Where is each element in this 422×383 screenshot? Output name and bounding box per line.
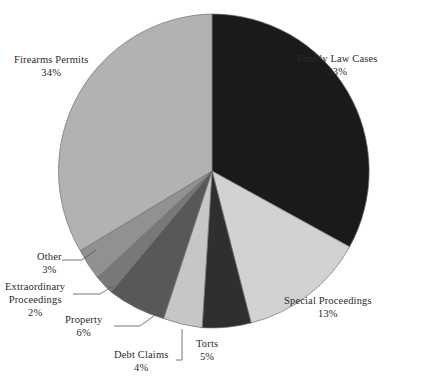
- pie-label-debt-claims-value: 4%: [114, 361, 168, 374]
- leader-line-property: [114, 313, 158, 326]
- pie-label-torts-value: 5%: [196, 350, 218, 363]
- pie-label-firearms-permits-name: Firearms Permits: [14, 53, 88, 66]
- pie-label-debt-claims: Debt Claims 4%: [114, 348, 168, 374]
- pie-label-firearms-permits: Firearms Permits 34%: [14, 53, 88, 79]
- pie-label-special-proceedings-name: Special Proceedings: [284, 294, 372, 307]
- pie-label-special-proceedings: Special Proceedings 13%: [284, 294, 372, 320]
- pie-label-other-value: 3%: [37, 263, 62, 276]
- pie-label-extraordinary-proceedings-name-line2: Proceedings: [5, 293, 65, 306]
- pie-label-property-name: Property: [65, 313, 102, 326]
- pie-label-property: Property 6%: [65, 313, 102, 339]
- pie-label-other: Other 3%: [37, 250, 62, 276]
- pie-label-special-proceedings-value: 13%: [284, 307, 372, 320]
- pie-label-torts: Torts 5%: [196, 337, 218, 363]
- pie-label-family-law-cases: Family Law Cases 33%: [297, 52, 378, 78]
- pie-label-extraordinary-proceedings-value: 2%: [5, 306, 65, 319]
- pie-label-extraordinary-proceedings-name-line1: Extraordinary: [5, 280, 65, 293]
- pie-label-property-value: 6%: [65, 326, 102, 339]
- pie-label-other-name: Other: [37, 250, 62, 263]
- pie-label-torts-name: Torts: [196, 337, 218, 350]
- pie-label-extraordinary-proceedings: Extraordinary Proceedings 2%: [5, 280, 65, 319]
- pie-label-family-law-cases-value: 33%: [297, 65, 378, 78]
- pie-label-firearms-permits-value: 34%: [14, 66, 88, 79]
- leader-line-debt-claims: [176, 329, 182, 360]
- pie-label-debt-claims-name: Debt Claims: [114, 348, 168, 361]
- pie-chart-figure: Firearms Permits 34% Family Law Cases 33…: [0, 0, 422, 383]
- pie-label-family-law-cases-name: Family Law Cases: [297, 52, 378, 65]
